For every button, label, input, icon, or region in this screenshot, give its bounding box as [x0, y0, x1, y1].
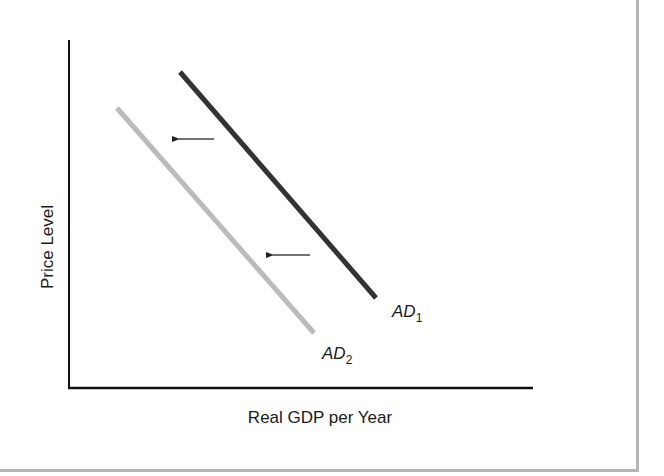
aggregate-demand-chart: AD1 AD2 Real GDP per Year Price Level — [0, 0, 664, 476]
y-axis-title: Price Level — [38, 205, 57, 289]
ad2-label-main: AD — [321, 344, 346, 363]
ad2-label: AD2 — [321, 344, 353, 367]
ad1-label-subscript: 1 — [416, 311, 423, 325]
ad1-label-main: AD — [391, 302, 416, 321]
ad1-curve — [180, 72, 376, 298]
ad1-label: AD1 — [391, 302, 423, 325]
ad2-label-subscript: 2 — [346, 353, 353, 367]
x-axis-title: Real GDP per Year — [248, 408, 393, 427]
ad2-curve — [117, 108, 314, 333]
